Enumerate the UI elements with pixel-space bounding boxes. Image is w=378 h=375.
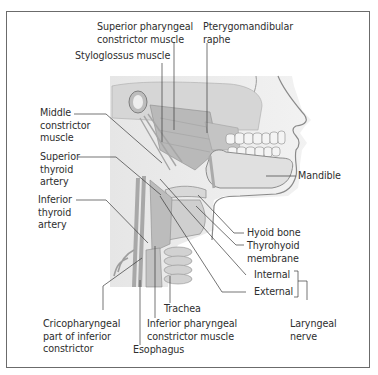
label-laryngeal-nerve: Laryngeal nerve	[290, 318, 337, 343]
label-pterygomandibular-raphe: Pterygomandibular raphe	[203, 21, 293, 46]
label-cricopharyngeal-part: Cricopharyngeal part of inferior constri…	[43, 318, 120, 356]
label-superior-thyroid-artery: Superior thyroid artery	[40, 151, 80, 189]
label-trachea: Trachea	[164, 303, 201, 316]
label-hyoid-bone: Hyoid bone	[247, 227, 301, 240]
label-inferior-thyroid-artery: Inferior thyroid artery	[38, 194, 72, 232]
label-styloglossus-muscle: Styloglossus muscle	[75, 50, 170, 63]
label-esophagus: Esophagus	[133, 344, 184, 357]
label-middle-constrictor-muscle: Middle constrictor muscle	[40, 107, 90, 145]
label-inferior-pharyngeal-constrictor: Inferior pharyngeal constrictor muscle	[147, 318, 237, 343]
label-internal-branch: Internal	[254, 269, 290, 282]
hyoid-bone	[165, 186, 206, 198]
label-external-branch: External	[254, 286, 293, 299]
label-mandible: Mandible	[298, 170, 341, 183]
label-thyrohyoid-membrane: Thyrohyoid membrane	[247, 240, 300, 265]
label-superior-pharyngeal-constrictor: Superior pharyngeal constrictor muscle	[97, 21, 193, 46]
esophagus-tube	[146, 248, 162, 287]
